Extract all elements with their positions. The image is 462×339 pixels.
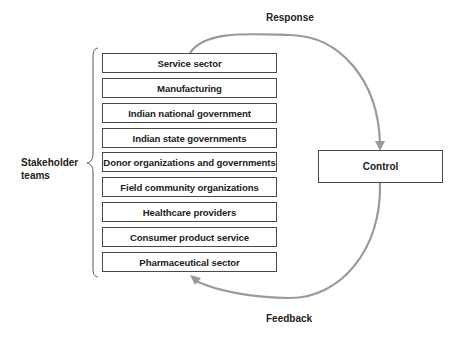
control-box: Control bbox=[318, 150, 443, 183]
feedback-label: Feedback bbox=[266, 313, 312, 324]
stakeholder-box-manufacturing: Manufacturing bbox=[102, 78, 277, 98]
stakeholder-label-line2: teams bbox=[21, 169, 78, 182]
stakeholder-box-national-government: Indian national government bbox=[102, 103, 277, 123]
stakeholder-brace bbox=[87, 48, 98, 277]
stakeholder-teams-label: Stakeholder teams bbox=[21, 156, 78, 182]
stakeholder-box-field-community: Field community organizations bbox=[102, 177, 277, 197]
stakeholder-box-pharmaceutical: Pharmaceutical sector bbox=[102, 252, 277, 272]
stakeholder-box-healthcare-providers: Healthcare providers bbox=[102, 202, 277, 222]
stakeholder-box-state-governments: Indian state governments bbox=[102, 128, 277, 148]
stakeholder-box-service-sector: Service sector bbox=[102, 53, 277, 73]
stakeholder-label-line1: Stakeholder bbox=[21, 156, 78, 169]
stakeholder-box-donor-organizations: Donor organizations and governments bbox=[102, 152, 277, 172]
stakeholder-box-consumer-product: Consumer product service bbox=[102, 227, 277, 247]
response-label: Response bbox=[266, 12, 314, 23]
